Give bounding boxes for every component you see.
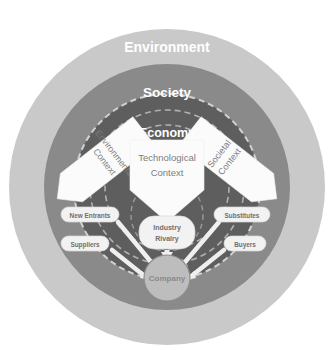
nested-context-diagram: Environment Society Economy Environmenta… [0, 0, 334, 350]
force-buyers-label: Buyers [234, 241, 256, 249]
force-suppliers-label: Suppliers [70, 241, 100, 249]
force-buyers[interactable]: Buyers [224, 236, 266, 251]
force-suppliers[interactable]: Suppliers [61, 236, 109, 251]
force-new-entrants-label: New Entrants [70, 212, 111, 219]
industry-rivalry-bubble[interactable] [139, 216, 195, 249]
context-technological-label-line2: Context [151, 167, 184, 178]
industry-rivalry-label-line2: Rivalry [155, 235, 178, 243]
force-new-entrants[interactable]: New Entrants [61, 207, 119, 222]
industry-rivalry-label-line1: Industry [153, 224, 181, 232]
company-node[interactable]: Company [144, 255, 190, 301]
company-label: Company [149, 274, 186, 283]
ring-label-society: Society [143, 85, 192, 100]
force-substitutes-label: Substitutes [225, 212, 260, 219]
diagram-canvas: Environment Society Economy Environmenta… [0, 0, 334, 350]
industry-rivalry[interactable]: Industry Rivalry [139, 216, 195, 249]
force-substitutes[interactable]: Substitutes [214, 207, 270, 222]
ring-label-environment: Environment [124, 39, 210, 55]
context-technological-label-line1: Technological [138, 152, 196, 163]
